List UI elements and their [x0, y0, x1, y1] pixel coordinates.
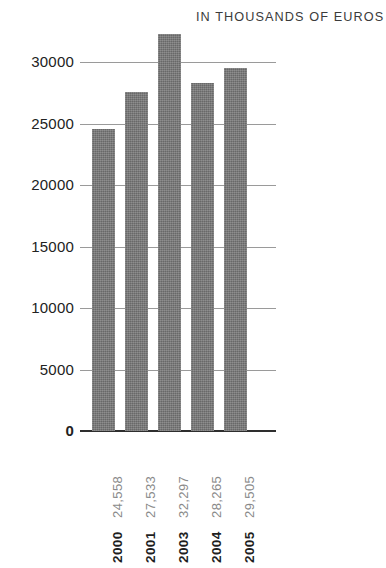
bar-value-label: 29,505: [242, 476, 257, 518]
bar[interactable]: [191, 83, 214, 431]
x-axis-category-label: 2004: [209, 531, 224, 563]
y-axis-tick-label: 0: [65, 422, 74, 439]
bar-value-label: 28,265: [209, 476, 224, 518]
bar[interactable]: [125, 92, 148, 431]
bar[interactable]: [224, 68, 247, 431]
x-axis-category-label: 2005: [242, 531, 257, 563]
x-axis-category-label: 2000: [110, 531, 125, 563]
bar-value-label: 27,533: [143, 476, 158, 518]
x-axis-category-label: 2003: [176, 531, 191, 563]
y-axis-tick-label: 20000: [31, 176, 74, 193]
y-axis-tick-label: 5000: [40, 361, 74, 378]
chart-page: IN THOUSANDS OF EUROS 050001000015000200…: [0, 0, 386, 568]
x-axis-category-label: 2001: [143, 531, 158, 563]
y-axis-tick-label: 25000: [31, 115, 74, 132]
bar-value-label: 32,297: [176, 476, 191, 518]
bar[interactable]: [92, 129, 115, 431]
plot-area: 05000100001500020000250003000024,5582000…: [0, 0, 386, 568]
bar-value-label: 24,558: [110, 476, 125, 518]
y-axis-tick-label: 10000: [31, 299, 74, 316]
y-axis-tick-label: 15000: [31, 238, 74, 255]
y-axis-tick-label: 30000: [31, 53, 74, 70]
bar[interactable]: [158, 34, 181, 431]
